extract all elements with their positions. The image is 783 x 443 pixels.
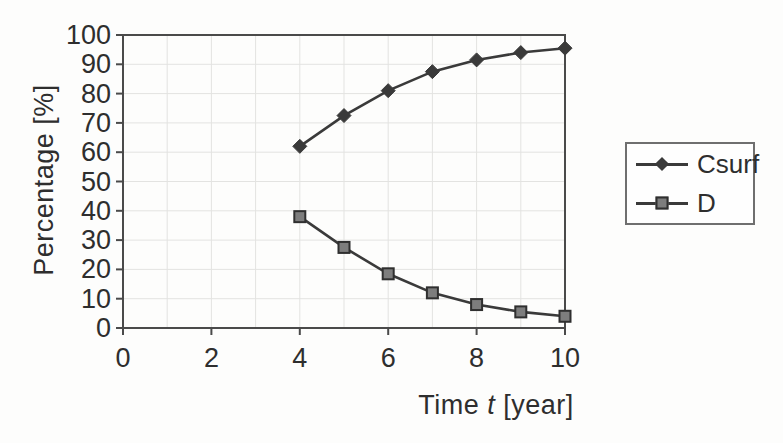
y-axis-title: Percentage [%] — [29, 84, 60, 276]
csurf-data-point — [514, 46, 528, 60]
d-data-point — [383, 268, 394, 279]
legend-item-csurf: Csurf — [636, 151, 753, 177]
y-tick-label: 100 — [66, 20, 111, 50]
y-tick-label: 80 — [81, 79, 111, 109]
x-axis-title-variable: t — [487, 390, 495, 420]
x-axis-title-suffix: [year] — [495, 390, 574, 420]
x-axis-title: Time t [year] — [418, 390, 574, 421]
csurf-data-point — [558, 41, 572, 55]
diamond-marker-icon — [655, 157, 669, 171]
y-tick-label: 50 — [81, 167, 111, 197]
d-data-point — [339, 242, 350, 253]
y-tick-label: 70 — [81, 108, 111, 138]
d-data-point — [515, 306, 526, 317]
d-data-point — [294, 211, 305, 222]
csurf-data-point — [425, 65, 439, 79]
legend-line-sample-d — [636, 202, 688, 205]
d-data-point — [560, 311, 571, 322]
y-tick-label: 40 — [81, 196, 111, 226]
csurf-data-point — [470, 53, 484, 67]
legend-label-d: D — [697, 190, 716, 216]
legend-item-d: D — [636, 190, 753, 216]
chart-figure: 02468100102030405060708090100 Percentage… — [0, 0, 783, 443]
x-tick-label: 10 — [550, 343, 580, 373]
x-tick-label: 8 — [469, 343, 484, 373]
y-tick-label: 10 — [81, 284, 111, 314]
x-axis-title-prefix: Time — [418, 390, 487, 420]
y-tick-label: 0 — [96, 313, 111, 343]
x-tick-label: 2 — [204, 343, 219, 373]
legend-label-csurf: Csurf — [697, 151, 759, 177]
x-tick-label: 4 — [292, 343, 307, 373]
csurf-data-point — [381, 84, 395, 98]
x-tick-label: 6 — [381, 343, 396, 373]
y-tick-label: 90 — [81, 49, 111, 79]
d-data-point — [471, 299, 482, 310]
d-data-point — [427, 287, 438, 298]
y-tick-label: 30 — [81, 225, 111, 255]
legend: Csurf D — [625, 142, 755, 225]
x-tick-label: 0 — [115, 343, 130, 373]
y-tick-label: 20 — [81, 254, 111, 284]
legend-line-sample-csurf — [636, 163, 688, 166]
y-tick-label: 60 — [81, 137, 111, 167]
square-marker-icon — [656, 197, 669, 210]
